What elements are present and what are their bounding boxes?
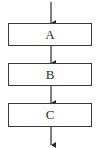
node-a-label: A xyxy=(45,27,54,43)
node-c-label: C xyxy=(46,107,55,123)
node-a: A xyxy=(8,23,92,46)
node-b: B xyxy=(8,63,92,86)
node-c: C xyxy=(8,103,92,127)
node-b-label: B xyxy=(46,67,55,83)
